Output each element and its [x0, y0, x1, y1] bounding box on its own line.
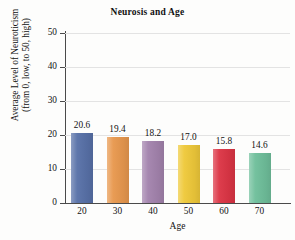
x-axis-tick-label: 20: [65, 206, 99, 216]
gridline: [65, 101, 290, 102]
y-axis-tick-label: 30: [27, 95, 57, 105]
y-axis-tick-label: 0: [27, 197, 57, 207]
bar-value-label: 14.6: [238, 140, 282, 150]
bar[interactable]: [213, 149, 235, 203]
y-axis-tick-label: 50: [27, 27, 57, 37]
plot-area: 20.619.418.217.015.814.6: [65, 33, 290, 203]
y-axis-title: Average Level of Neuroticism (from 0, lo…: [4, 0, 38, 150]
x-axis-tick-label: 50: [172, 206, 206, 216]
chart-screenshot: Neurosis and Age Average Level of Neurot…: [0, 0, 295, 240]
gridline: [65, 67, 290, 68]
y-axis-tick-label: 20: [27, 129, 57, 139]
bar[interactable]: [71, 133, 93, 203]
bar-shading: [178, 145, 200, 203]
bar-shading: [249, 153, 271, 203]
x-axis-tick-label: 70: [243, 206, 277, 216]
bar-shading: [142, 141, 164, 203]
x-axis-spine: [65, 203, 291, 204]
x-axis-tick-label: 60: [207, 206, 241, 216]
bar[interactable]: [178, 145, 200, 203]
bar[interactable]: [142, 141, 164, 203]
y-axis-tick-label: 10: [27, 163, 57, 173]
bar-shading: [71, 133, 93, 203]
bar-shading: [107, 137, 129, 203]
chart-title: Neurosis and Age: [0, 7, 295, 17]
x-axis-tick-label: 30: [101, 206, 135, 216]
y-axis-title-line-1: Average Level of Neuroticism: [10, 9, 21, 122]
bar-shading: [213, 149, 235, 203]
y-axis-tick-label: 40: [27, 61, 57, 71]
gridline: [65, 33, 290, 34]
x-axis-tick-label: 40: [136, 206, 170, 216]
x-axis-title: Age: [65, 221, 290, 231]
bar[interactable]: [249, 153, 271, 203]
bar[interactable]: [107, 137, 129, 203]
